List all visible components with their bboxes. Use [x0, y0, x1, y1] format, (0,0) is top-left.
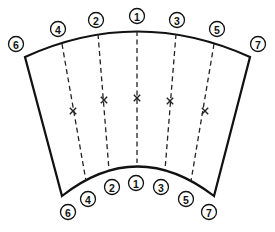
bottom-label-3: 3: [154, 180, 169, 195]
top-label-7: 7: [251, 37, 266, 52]
sector-diagram: 6421357 6421357: [0, 0, 275, 232]
label-number: 2: [93, 15, 99, 27]
label-number: 1: [134, 11, 140, 23]
bottom-label-7: 7: [202, 205, 217, 220]
bottom-label-5: 5: [179, 192, 194, 207]
bottom-label-6: 6: [61, 205, 76, 220]
center-x-mark-icon: [202, 108, 208, 114]
label-number: 4: [85, 194, 91, 206]
sector-outline: [25, 32, 250, 197]
top-label-4: 4: [51, 22, 66, 37]
label-number: 3: [158, 182, 164, 194]
center-marks: [70, 95, 208, 114]
label-number: 3: [174, 15, 180, 27]
division-line-2: [98, 34, 109, 170]
label-number: 5: [183, 194, 189, 206]
top-label-1: 1: [130, 9, 145, 24]
top-label-3: 3: [170, 13, 185, 28]
division-lines: [62, 31, 214, 181]
label-number: 7: [255, 39, 261, 51]
top-label-5: 5: [210, 22, 225, 37]
top-labels: 6421357: [9, 9, 266, 52]
label-number: 1: [133, 178, 139, 190]
label-number: 5: [214, 24, 220, 36]
top-label-2: 2: [89, 13, 104, 28]
bottom-label-4: 4: [81, 192, 96, 207]
center-x-mark-icon: [70, 108, 76, 114]
top-label-6: 6: [9, 37, 24, 52]
bottom-label-2: 2: [105, 180, 120, 195]
division-line-5: [191, 44, 214, 181]
label-number: 7: [206, 207, 212, 219]
label-number: 6: [13, 39, 19, 51]
bottom-label-1: 1: [129, 176, 144, 191]
label-number: 4: [55, 24, 61, 36]
label-number: 6: [65, 207, 71, 219]
label-number: 2: [109, 182, 115, 194]
